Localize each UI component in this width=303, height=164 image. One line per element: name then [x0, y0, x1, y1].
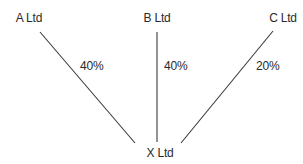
node-a-ltd: A Ltd [16, 12, 42, 25]
node-x-ltd: X Ltd [146, 147, 173, 160]
node-b-ltd: B Ltd [143, 12, 170, 25]
ownership-diagram: A Ltd B Ltd C Ltd X Ltd 40% 40% 20% [0, 0, 303, 164]
edge-a-to-x [40, 32, 135, 143]
node-c-ltd: C Ltd [269, 12, 297, 25]
edge-c-to-x [181, 31, 273, 143]
edge-label-b-to-x: 40% [164, 60, 187, 73]
edge-label-c-to-x: 20% [256, 60, 279, 73]
edge-label-a-to-x: 40% [80, 60, 103, 73]
